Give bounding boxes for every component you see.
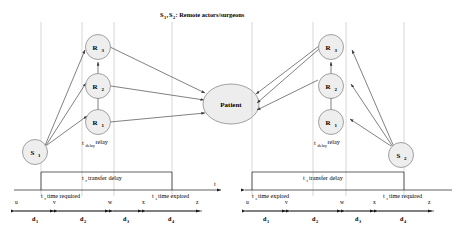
left-required-text: time required [47, 192, 81, 199]
right-relay-caption-base: t [314, 139, 316, 146]
left-relay-caption-base: t [82, 139, 84, 146]
right-required-caption: t r time required [383, 192, 423, 201]
right-transfer-caption: t r transfer delay [303, 174, 344, 183]
left-transfer-base: t [82, 174, 84, 181]
left-marker-u: u [15, 199, 18, 205]
legend-rest: : Remote actors/surgeons [176, 11, 245, 18]
panel-left: R 3 R 2 R 1 S 1 t delay relay [14, 22, 221, 224]
right-relay-caption-text: relay [328, 138, 341, 145]
node-R1-right[interactable]: R 1 [319, 110, 344, 135]
right-segment-d3-sub: 3 [359, 219, 362, 224]
right-marker-w: w [340, 199, 345, 205]
left-edges [44, 47, 205, 148]
node-S2[interactable]: S 2 [389, 143, 414, 168]
left-relay-caption-sub: delay [86, 143, 96, 148]
left-markers: u v w x z [15, 199, 199, 205]
node-R2-left[interactable]: R 2 [86, 74, 111, 99]
right-relay-caption-sub: delay [318, 143, 328, 148]
node-S2-label: S [397, 152, 401, 160]
left-relay-caption: t delay relay [82, 138, 109, 148]
left-relay-caption-text: relay [96, 138, 109, 145]
node-S1[interactable]: S 1 [23, 140, 48, 165]
right-segment-d2-sub: 2 [316, 219, 318, 224]
left-transfer-caption: t r transfer delay [82, 174, 123, 183]
node-R3-right[interactable]: R 3 [319, 35, 344, 60]
left-segment-d4-sub: 4 [172, 219, 175, 224]
node-R3-left[interactable]: R 3 [86, 35, 111, 60]
right-segment-labels: d 1 d 2 d 3 d 4 [263, 215, 407, 224]
left-marker-z: z [196, 199, 199, 205]
right-required-base: t [383, 192, 385, 199]
right-expired-text: time expired [258, 192, 290, 199]
left-transfer-text: transfer delay [88, 174, 123, 181]
right-required-text: time required [389, 192, 423, 199]
right-markers: u v w x z [246, 199, 431, 205]
left-required-base: t [41, 192, 43, 199]
legend-title: S 1 , S 2 : Remote actors/surgeons [160, 11, 245, 20]
right-marker-x: x [373, 199, 376, 205]
right-marker-z: z [428, 199, 431, 205]
node-S1-label: S [31, 149, 35, 157]
right-marker-u: u [246, 199, 249, 205]
right-expired-base: t [252, 192, 254, 199]
node-patient-label: Patient [220, 101, 242, 109]
telesurgery-topology-diagram: R 3 R 2 R 1 S 1 t delay relay [0, 0, 462, 230]
left-marker-x: x [142, 199, 145, 205]
left-expired-caption: t e time expired [152, 192, 190, 201]
left-segment-d1-sub: 1 [36, 219, 38, 224]
right-relay-caption: t delay relay [314, 138, 341, 148]
left-segment-d3-sub: 3 [127, 219, 130, 224]
right-transfer-base: t [303, 174, 305, 181]
left-axis-arrow-label: t [214, 180, 216, 187]
left-expired-base: t [152, 192, 154, 199]
node-patient[interactable]: Patient [203, 84, 259, 124]
left-nodes: R 3 R 2 R 1 S 1 [23, 35, 111, 165]
left-segment-labels: d 1 d 2 d 3 d 4 [32, 215, 175, 224]
node-R1-left[interactable]: R 1 [86, 110, 111, 135]
left-segment-d2-sub: 2 [84, 219, 86, 224]
right-segment-d4-sub: 4 [404, 219, 407, 224]
left-marker-w: w [108, 199, 113, 205]
right-transfer-text: transfer delay [309, 174, 344, 181]
left-marker-v: v [53, 199, 56, 205]
left-time-axis: t [14, 180, 221, 190]
right-nodes: R 3 R 2 R 1 S 2 [319, 35, 414, 168]
left-expired-text: time expired [158, 192, 190, 199]
right-segment-d1-sub: 1 [267, 219, 269, 224]
left-required-caption: t r time required [41, 192, 81, 201]
right-marker-v: v [285, 199, 288, 205]
node-R2-right[interactable]: R 2 [319, 74, 344, 99]
panel-right: R 3 R 2 R 1 S 2 t delay relay [245, 22, 452, 224]
diagram-canvas: R 3 R 2 R 1 S 1 t delay relay [0, 0, 462, 230]
